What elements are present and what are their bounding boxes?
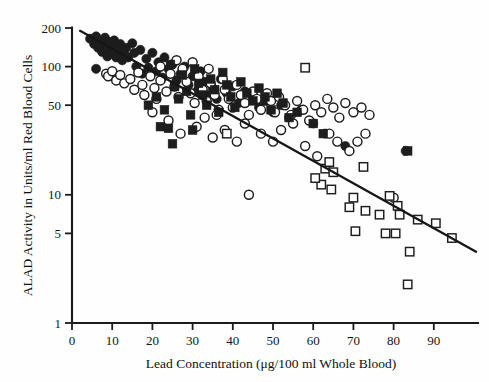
data-point-open-circle bbox=[176, 129, 185, 138]
data-point-filled-square bbox=[206, 75, 215, 84]
data-point-filled-square bbox=[222, 81, 231, 90]
series-open-circle bbox=[102, 56, 398, 202]
data-point-open-square bbox=[301, 64, 309, 72]
x-axis-tick-label: 90 bbox=[427, 333, 440, 348]
data-point-filled-square bbox=[168, 139, 177, 148]
data-point-open-circle bbox=[345, 146, 354, 155]
data-point-open-circle bbox=[232, 137, 241, 146]
data-point-open-circle bbox=[341, 99, 350, 108]
data-point-open-circle bbox=[166, 69, 175, 78]
data-point-open-circle bbox=[353, 137, 362, 146]
data-point-filled-square bbox=[210, 85, 219, 94]
data-point-open-square bbox=[311, 174, 319, 182]
data-point-open-square bbox=[381, 229, 389, 237]
data-point-open-circle bbox=[204, 64, 213, 73]
data-point-open-square bbox=[351, 227, 359, 235]
x-axis-tick-label: 70 bbox=[347, 333, 360, 348]
x-axis-tick-label: 0 bbox=[69, 333, 76, 348]
data-point-open-circle bbox=[208, 133, 217, 142]
data-point-filled-square bbox=[174, 95, 183, 104]
data-point-open-circle bbox=[126, 75, 135, 84]
data-point-open-circle bbox=[138, 80, 147, 89]
data-point-filled-square bbox=[285, 113, 294, 122]
data-point-open-circle bbox=[313, 152, 322, 161]
data-point-open-circle bbox=[164, 116, 173, 125]
x-axis-tick-label: 10 bbox=[106, 333, 119, 348]
regression-trendline bbox=[80, 31, 476, 252]
data-point-filled-square bbox=[156, 122, 165, 131]
data-point-open-circle bbox=[190, 99, 199, 108]
data-point-open-circle bbox=[240, 99, 249, 108]
data-points-layer bbox=[85, 32, 456, 289]
data-point-open-circle bbox=[317, 108, 326, 117]
data-point-filled-square bbox=[261, 93, 270, 102]
data-point-open-circle bbox=[162, 87, 171, 96]
data-point-open-circle bbox=[200, 113, 209, 122]
data-point-filled-square bbox=[218, 68, 227, 77]
data-point-filled-square bbox=[403, 147, 412, 156]
data-point-open-circle bbox=[116, 70, 125, 79]
data-point-filled-square bbox=[227, 93, 236, 102]
data-point-open-square bbox=[391, 229, 399, 237]
data-point-open-circle bbox=[277, 126, 286, 135]
x-axis-tick-label: 50 bbox=[267, 333, 280, 348]
x-axis-title: Lead Concentration (μg/100 ml Whole Bloo… bbox=[146, 356, 396, 371]
data-point-open-square bbox=[375, 210, 383, 218]
data-point-filled-square bbox=[194, 79, 203, 88]
x-axis-tick-label: 40 bbox=[226, 333, 239, 348]
data-point-open-circle bbox=[323, 94, 332, 103]
x-axis-tick-label: 20 bbox=[146, 333, 159, 348]
data-point-open-square bbox=[325, 158, 333, 166]
data-point-filled-square bbox=[166, 60, 175, 69]
y-axis-tick-label: 50 bbox=[48, 98, 61, 113]
data-point-open-square bbox=[345, 203, 353, 211]
data-point-open-square bbox=[385, 192, 393, 200]
data-point-filled-square bbox=[249, 97, 258, 106]
data-point-filled-square bbox=[164, 124, 173, 133]
data-point-filled-square bbox=[237, 78, 246, 87]
data-point-open-square bbox=[361, 207, 369, 215]
data-point-filled-square bbox=[279, 99, 288, 108]
data-point-filled-square bbox=[190, 65, 199, 74]
data-point-open-circle bbox=[244, 110, 253, 119]
data-point-open-circle bbox=[150, 84, 159, 93]
data-point-filled-circle bbox=[148, 48, 157, 57]
data-point-filled-square bbox=[243, 89, 252, 98]
y-axis-tick-label: 100 bbox=[42, 59, 62, 74]
data-point-open-circle bbox=[256, 105, 265, 114]
scatter-plot: 1510501002000102030405060708090Lead Conc… bbox=[0, 0, 489, 382]
x-axis-tick-label: 30 bbox=[186, 333, 199, 348]
data-point-open-square bbox=[223, 129, 231, 137]
data-point-open-circle bbox=[134, 68, 143, 77]
data-point-open-circle bbox=[365, 110, 374, 119]
data-point-open-square bbox=[432, 219, 440, 227]
data-point-filled-square bbox=[188, 126, 197, 135]
data-point-filled-square bbox=[160, 106, 169, 115]
data-point-open-circle bbox=[335, 113, 344, 122]
data-point-filled-circle bbox=[136, 45, 145, 54]
y-axis-tick-label: 10 bbox=[48, 187, 61, 202]
data-point-open-square bbox=[327, 185, 335, 193]
data-point-filled-square bbox=[231, 103, 240, 112]
data-point-filled-square bbox=[255, 84, 264, 93]
data-point-open-circle bbox=[244, 190, 253, 199]
data-point-open-circle bbox=[357, 103, 366, 112]
y-axis-tick-label: 1 bbox=[55, 316, 62, 331]
data-point-filled-square bbox=[178, 71, 187, 80]
data-point-filled-square bbox=[186, 111, 195, 120]
data-point-open-square bbox=[359, 163, 367, 171]
data-point-open-circle bbox=[301, 142, 310, 151]
data-point-open-circle bbox=[293, 96, 302, 105]
data-point-filled-square bbox=[319, 129, 328, 138]
trendline-layer bbox=[80, 31, 476, 252]
data-point-filled-square bbox=[267, 106, 276, 115]
x-axis-tick-label: 60 bbox=[307, 333, 320, 348]
data-point-open-circle bbox=[333, 137, 342, 146]
data-point-filled-square bbox=[152, 93, 161, 102]
figure-container: 1510501002000102030405060708090Lead Conc… bbox=[0, 0, 489, 382]
y-axis-tick-label: 200 bbox=[42, 21, 62, 36]
data-point-open-square bbox=[403, 280, 411, 288]
y-axis-tick-label: 5 bbox=[55, 226, 62, 241]
x-axis-tick-label: 80 bbox=[387, 333, 400, 348]
data-point-open-circle bbox=[329, 103, 338, 112]
